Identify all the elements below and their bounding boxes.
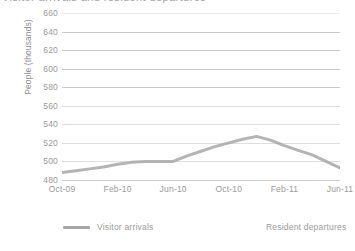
y-tick-label: 500	[6, 156, 58, 166]
line-chart: People (thousands) 660640620600580560540…	[0, 0, 355, 251]
y-tick-label: 600	[6, 64, 58, 74]
x-tick-label: Oct-10	[215, 184, 242, 194]
y-tick-label: 560	[6, 101, 58, 111]
chart-legend: Visitor arrivals Resident departures	[0, 222, 355, 242]
x-tick-label: Feb-10	[104, 184, 132, 194]
plot-area	[62, 13, 340, 180]
x-tick-label: Feb-11	[271, 184, 299, 194]
y-tick-label: 580	[6, 82, 58, 92]
y-tick-label: 620	[6, 45, 58, 55]
x-axis-baseline	[62, 180, 340, 181]
legend-item-resident-departures[interactable]: Resident departures	[232, 222, 346, 232]
x-axis-labels: Oct-09Feb-10Jun-10Oct-10Feb-11Jun-11	[62, 184, 340, 200]
y-tick-label: 520	[6, 138, 58, 148]
legend-item-visitor-arrivals[interactable]: Visitor arrivals	[63, 222, 153, 232]
legend-swatch-faded-icon	[232, 226, 259, 229]
x-tick-label: Oct-09	[49, 184, 76, 194]
x-tick-label: Jun-10	[160, 184, 187, 194]
y-tick-label: 660	[6, 8, 58, 18]
y-tick-label: 640	[6, 27, 58, 37]
legend-label-resident-departures: Resident departures	[266, 222, 346, 232]
series-visitor-arrivals	[62, 13, 340, 180]
y-axis-labels: 660640620600580560540520500480	[0, 13, 58, 180]
legend-swatch-icon	[63, 226, 90, 229]
x-tick-label: Jun-11	[327, 184, 354, 194]
line-visitor-arrivals	[62, 136, 340, 172]
legend-label-visitor-arrivals: Visitor arrivals	[97, 222, 153, 232]
y-tick-label: 540	[6, 119, 58, 129]
